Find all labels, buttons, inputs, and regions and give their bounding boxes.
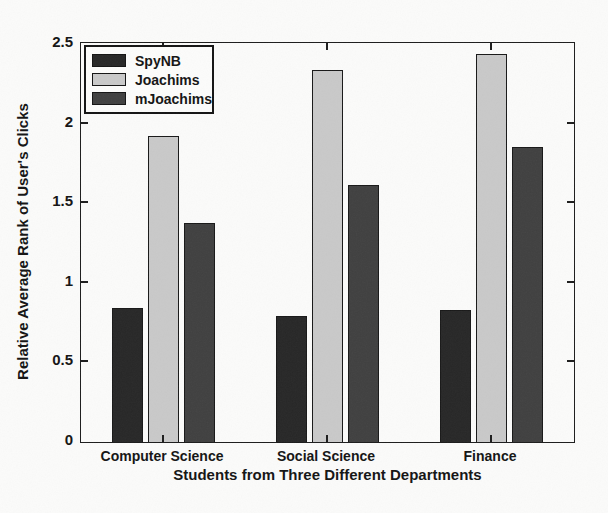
y-tick-label: 0.5 <box>21 351 73 369</box>
legend-row-joachims: Joachims <box>92 70 208 89</box>
y-tick-label: 0 <box>21 431 73 449</box>
y-tick-label: 2 <box>21 113 73 131</box>
y-tick-mark-left <box>81 281 88 283</box>
x-tick-mark-bottom-computer-science <box>162 435 164 442</box>
y-tick-mark-right <box>567 201 574 203</box>
y-tick-label: 1 <box>21 272 73 290</box>
legend-swatch-mjoachims <box>92 92 126 105</box>
y-tick-label: 2.5 <box>21 33 73 51</box>
y-tick-label: 1.5 <box>21 192 73 210</box>
legend-row-spynb: SpyNB <box>92 51 208 70</box>
legend: SpyNBJoachimsmJoachims <box>84 45 214 114</box>
y-axis-title: Relative Average Rank of User's Clicks <box>14 12 31 472</box>
y-tick-mark-right <box>567 122 574 124</box>
x-tick-mark-top-social-science <box>326 43 328 50</box>
legend-label-joachims: Joachims <box>135 73 200 87</box>
y-tick-mark-right <box>567 281 574 283</box>
plot-area: SpyNBJoachimsmJoachims <box>80 42 575 443</box>
legend-label-spynb: SpyNB <box>135 54 181 68</box>
legend-row-mjoachims: mJoachims <box>92 89 208 108</box>
y-tick-mark-left <box>81 122 88 124</box>
legend-swatch-joachims <box>92 73 126 86</box>
y-tick-mark-right <box>567 360 574 362</box>
x-tick-mark-bottom-finance <box>490 435 492 442</box>
x-tick-mark-bottom-social-science <box>326 435 328 442</box>
x-axis-title: Students from Three Different Department… <box>80 466 575 483</box>
legend-swatch-spynb <box>92 54 126 67</box>
legend-label-mjoachims: mJoachims <box>135 92 212 106</box>
y-tick-mark-left <box>81 201 88 203</box>
x-tick-mark-top-finance <box>490 43 492 50</box>
y-tick-mark-left <box>81 360 88 362</box>
x-tick-label-finance: Finance <box>390 448 590 464</box>
bar-chart-figure: Relative Average Rank of User's Clicks S… <box>0 0 608 513</box>
